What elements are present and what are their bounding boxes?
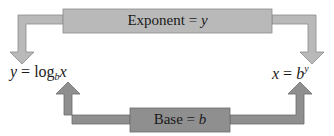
exponent-var: y: [201, 12, 208, 28]
exp-base: b: [296, 65, 304, 82]
base-var: b: [199, 111, 207, 127]
exponent-label: Exponent = y: [63, 12, 272, 29]
arrow-down-left-icon: [10, 15, 63, 64]
equals-sign: =: [189, 12, 197, 28]
log-formula: y = logbx: [10, 63, 67, 82]
exponent-text: Exponent: [127, 12, 185, 28]
arrow-up-left-icon: [56, 82, 130, 124]
equals-sign: =: [187, 111, 195, 127]
exp-formula: x = by: [272, 63, 309, 83]
arrow-down-right-icon: [272, 15, 324, 64]
formula-lhs: y: [10, 63, 17, 80]
base-text: Base: [154, 111, 183, 127]
arrow-up-right-icon: [230, 82, 312, 124]
formula-lhs: x: [272, 65, 279, 82]
log-func: log: [34, 63, 54, 80]
equals-sign: =: [21, 63, 30, 80]
log-arg: x: [60, 63, 67, 80]
exp-power: y: [304, 63, 308, 74]
equals-sign: =: [283, 65, 292, 82]
base-label: Base = b: [130, 111, 230, 128]
